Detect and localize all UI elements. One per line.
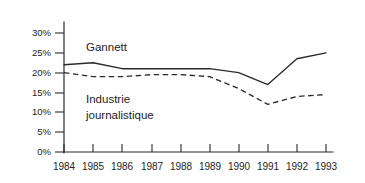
y-axis-ticks bbox=[55, 33, 64, 152]
industrie-series-label-line1: Industrie bbox=[86, 93, 130, 105]
y-axis-label-30: 30% bbox=[32, 27, 52, 38]
y-axis-label-25: 25% bbox=[32, 47, 52, 58]
x-axis-label-1989: 1989 bbox=[199, 161, 222, 172]
x-axis-ticks bbox=[64, 144, 326, 152]
x-axis-label-1984: 1984 bbox=[53, 161, 76, 172]
gannett-series-label: Gannett bbox=[86, 41, 128, 53]
x-axis-label-1986: 1986 bbox=[111, 161, 134, 172]
y-axis-label-10: 10% bbox=[32, 106, 52, 117]
x-axis-label-1991: 1991 bbox=[257, 161, 280, 172]
y-axis-label-5: 5% bbox=[37, 126, 51, 137]
y-axis-label-15: 15% bbox=[32, 87, 52, 98]
x-axis-labels: 1984 1985 1986 1987 1988 1989 1990 1991 … bbox=[53, 161, 338, 172]
x-axis-label-1992: 1992 bbox=[286, 161, 309, 172]
x-axis-label-1985: 1985 bbox=[82, 161, 105, 172]
x-axis-label-1988: 1988 bbox=[170, 161, 193, 172]
series-line-gannett bbox=[64, 53, 326, 85]
x-axis-label-1990: 1990 bbox=[228, 161, 251, 172]
line-chart: 30% 25% 20% 15% 10% 5% 0% 1984 198 bbox=[0, 0, 365, 183]
x-axis-label-1987: 1987 bbox=[141, 161, 164, 172]
y-axis-label-0: 0% bbox=[37, 146, 51, 157]
chart-page: 30% 25% 20% 15% 10% 5% 0% 1984 198 bbox=[0, 0, 365, 183]
industrie-series-label-line2: journalistique bbox=[85, 109, 154, 121]
x-axis-label-1993: 1993 bbox=[315, 161, 338, 172]
y-axis-labels: 30% 25% 20% 15% 10% 5% 0% bbox=[32, 27, 52, 157]
y-axis-label-20: 20% bbox=[32, 67, 52, 78]
